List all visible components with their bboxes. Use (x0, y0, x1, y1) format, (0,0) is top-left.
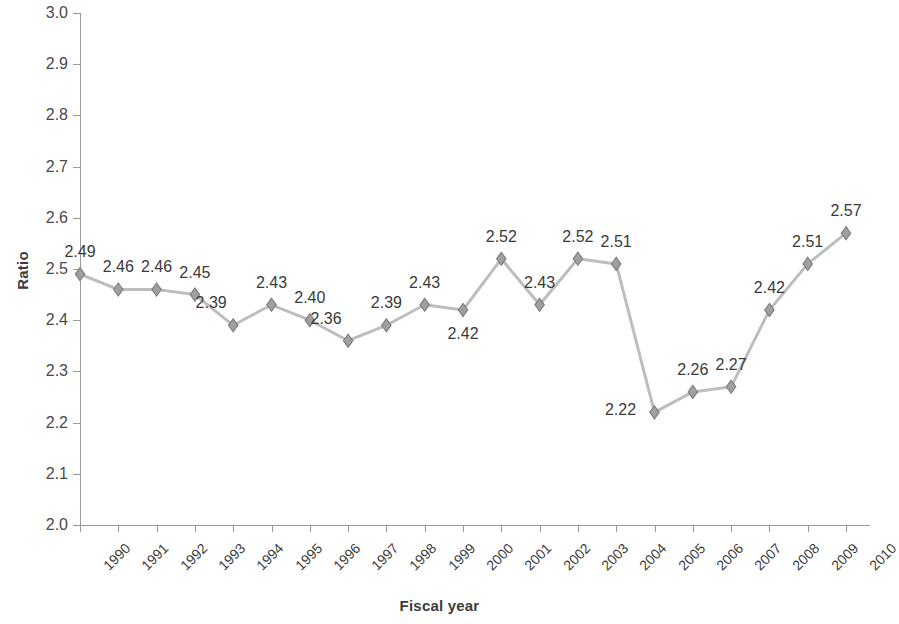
data-point-label: 2.49 (64, 243, 95, 261)
data-point-marker (726, 380, 735, 393)
y-tick (73, 423, 80, 424)
x-tick (348, 525, 349, 532)
data-point-label: 2.26 (677, 361, 708, 379)
y-tick (73, 115, 80, 116)
x-tick-label: 1990 (100, 540, 133, 573)
data-point-label: 2.45 (179, 264, 210, 282)
x-tick-label: 1997 (368, 540, 401, 573)
data-point-label: 2.51 (792, 233, 823, 251)
data-markers (75, 227, 850, 419)
y-tick-label: 2.7 (12, 158, 68, 176)
y-tick-label: 2.2 (12, 414, 68, 432)
x-tick-label: 2000 (483, 540, 516, 573)
data-point-marker (229, 319, 238, 332)
data-point-marker (382, 319, 391, 332)
x-tick-label: 2008 (790, 540, 823, 573)
y-tick (73, 269, 80, 270)
y-tick-label: 2.5 (12, 260, 68, 278)
x-tick (731, 525, 732, 532)
data-point-marker (343, 334, 352, 347)
x-tick (272, 525, 273, 532)
x-tick (578, 525, 579, 532)
x-tick-label: 2010 (866, 540, 899, 573)
x-tick (540, 525, 541, 532)
data-point-marker (420, 298, 429, 311)
y-tick-label: 2.8 (12, 106, 68, 124)
y-tick-label: 2.6 (12, 209, 68, 227)
x-tick (157, 525, 158, 532)
x-tick-label: 2002 (560, 540, 593, 573)
x-tick-label: 2009 (828, 540, 861, 573)
data-point-label: 2.36 (311, 310, 342, 328)
x-tick (616, 525, 617, 532)
y-tick (73, 64, 80, 65)
data-point-label: 2.22 (605, 401, 636, 419)
x-tick (386, 525, 387, 532)
y-tick (73, 167, 80, 168)
x-tick (463, 525, 464, 532)
x-tick-label: 2006 (713, 540, 746, 573)
y-tick-label: 2.9 (12, 55, 68, 73)
y-tick (73, 218, 80, 219)
data-point-marker (535, 298, 544, 311)
x-tick (501, 525, 502, 532)
data-point-label: 2.46 (103, 258, 134, 276)
data-point-marker (573, 252, 582, 265)
x-tick (195, 525, 196, 532)
data-point-marker (765, 303, 774, 316)
y-tick (73, 320, 80, 321)
x-tick-label: 1996 (330, 540, 363, 573)
y-axis-line (80, 13, 81, 526)
x-tick (693, 525, 694, 532)
data-point-label: 2.43 (256, 274, 287, 292)
x-tick-label: 1998 (407, 540, 440, 573)
data-point-label: 2.42 (754, 279, 785, 297)
x-tick-label: 1992 (177, 540, 210, 573)
data-point-marker (650, 406, 659, 419)
data-point-marker (114, 283, 123, 296)
y-tick (73, 525, 80, 526)
x-tick (80, 525, 81, 532)
data-point-label: 2.39 (371, 294, 402, 312)
data-point-label: 2.27 (716, 356, 747, 374)
data-point-marker (458, 303, 467, 316)
data-point-marker (497, 252, 506, 265)
x-tick-label: 1994 (253, 540, 286, 573)
y-tick (73, 371, 80, 372)
x-tick (769, 525, 770, 532)
data-point-label: 2.39 (196, 294, 227, 312)
y-tick-label: 2.4 (12, 311, 68, 329)
data-point-marker (841, 227, 850, 240)
x-tick (425, 525, 426, 532)
y-tick (73, 13, 80, 14)
data-point-label: 2.52 (562, 228, 593, 246)
x-tick-label: 1993 (215, 540, 248, 573)
y-tick (73, 474, 80, 475)
y-tick-label: 2.0 (12, 516, 68, 534)
x-tick (118, 525, 119, 532)
x-tick-label: 1999 (445, 540, 478, 573)
data-point-label: 2.57 (830, 202, 861, 220)
data-point-marker (803, 257, 812, 270)
data-point-label: 2.43 (409, 274, 440, 292)
data-point-label: 2.52 (486, 228, 517, 246)
data-point-marker (267, 298, 276, 311)
y-tick-label: 3.0 (12, 4, 68, 22)
data-point-marker (688, 385, 697, 398)
x-tick-label: 2005 (675, 540, 708, 573)
y-tick-label: 2.1 (12, 465, 68, 483)
data-line (80, 233, 846, 412)
data-point-marker (612, 257, 621, 270)
x-tick-label: 2003 (598, 540, 631, 573)
x-tick (655, 525, 656, 532)
x-tick (233, 525, 234, 532)
data-point-label: 2.43 (524, 274, 555, 292)
x-axis-title: Fiscal year (0, 597, 879, 614)
x-tick (846, 525, 847, 532)
data-point-label: 2.51 (601, 233, 632, 251)
x-tick (310, 525, 311, 532)
x-tick-label: 2001 (521, 540, 554, 573)
x-tick (808, 525, 809, 532)
